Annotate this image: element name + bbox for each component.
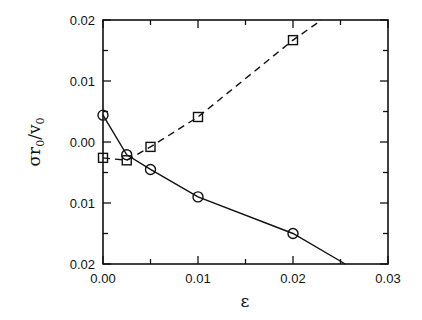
y-tick-label: 0.02: [70, 13, 95, 28]
x-tick-labels: 0.000.010.020.03: [90, 271, 400, 286]
y-tick-label: 0.02: [70, 257, 95, 272]
y-tick-label: 0.00: [70, 135, 95, 150]
x-tick-label: 0.02: [280, 271, 305, 286]
series-markers: [98, 36, 298, 239]
x-tick-label: 0.03: [375, 271, 400, 286]
x-axis-label: ε: [241, 291, 250, 311]
y-axis-label-main: σr: [24, 146, 44, 167]
y-tick-labels: 0.020.010.000.010.02: [70, 13, 95, 272]
y-axis-label: σr0/v0: [24, 117, 47, 166]
y-axis-label-sub2: 0: [34, 117, 47, 124]
y-axis-label-slash: /v: [24, 124, 44, 140]
series-lines: [103, 20, 345, 264]
solid-series-line: [103, 115, 345, 264]
y-tick-label: 0.01: [70, 196, 95, 211]
x-tick-label: 0.01: [185, 271, 210, 286]
y-tick-label: 0.01: [70, 74, 95, 89]
chart: 0.000.010.020.03 0.020.010.000.010.02 ε …: [0, 0, 422, 320]
y-axis-label-sub1: 0: [34, 140, 47, 147]
x-tick-label: 0.00: [90, 271, 115, 286]
